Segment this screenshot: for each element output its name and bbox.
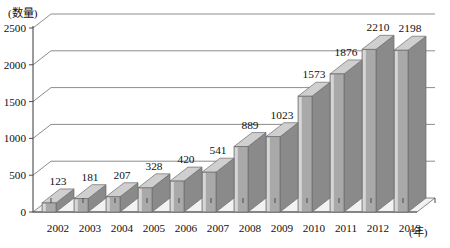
bar [298, 82, 330, 212]
y-tick-label: 2500 [4, 22, 27, 34]
bar [362, 35, 394, 212]
y-tick-label: 500 [9, 169, 26, 181]
bar-value-label: 2210 [367, 21, 390, 33]
x-tick-label: 2005 [143, 222, 166, 234]
bar [234, 133, 266, 212]
bar-value-label: 181 [81, 171, 98, 183]
bar [330, 60, 362, 212]
bar-value-label: 328 [145, 160, 162, 172]
x-tick-label: 2011 [335, 222, 357, 234]
y-tick-label: 2000 [4, 59, 27, 71]
x-tick-label: 2010 [303, 222, 326, 234]
bar-chart: 05001000150020002500 2198221018761573102… [0, 0, 450, 248]
y-tick-label: 0 [20, 206, 26, 218]
y-axis-title: (数量) [8, 6, 38, 20]
bar-value-label: 1573 [303, 68, 326, 80]
x-tick-label: 2003 [79, 222, 102, 234]
y-axis-ticks: 05001000150020002500 [4, 22, 33, 218]
bar-value-label: 541 [209, 144, 226, 156]
bar-value-label: 2198 [399, 22, 422, 34]
chart-canvas: 05001000150020002500 2198221018761573102… [0, 0, 450, 248]
y-tick-label: 1500 [4, 96, 27, 108]
x-tick-label: 2008 [239, 222, 262, 234]
bar-value-label: 1023 [271, 109, 294, 121]
x-axis-title: (年) [409, 225, 428, 239]
x-tick-label: 2007 [207, 222, 230, 234]
bar [266, 123, 298, 212]
bar-value-label: 123 [49, 175, 66, 187]
y-tick-label: 1000 [4, 132, 27, 144]
x-tick-label: 2006 [175, 222, 198, 234]
bar-value-label: 889 [241, 119, 258, 131]
x-tick-label: 2004 [111, 222, 134, 234]
bars-group [42, 35, 426, 212]
bar [394, 36, 426, 212]
bar-value-label: 207 [113, 169, 130, 181]
x-tick-label: 2012 [367, 222, 389, 234]
x-tick-label: 2009 [271, 222, 294, 234]
x-tick-label: 2002 [47, 222, 69, 234]
bar-value-label: 1876 [335, 46, 358, 58]
bar-value-label: 420 [177, 153, 194, 165]
